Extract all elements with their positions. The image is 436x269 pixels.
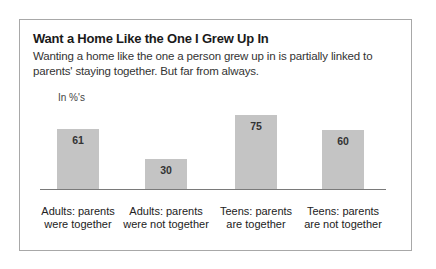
category-label-line1: Adults: parents xyxy=(33,205,123,218)
chart-title: Want a Home Like the One I Grew Up In xyxy=(33,31,269,46)
category-label-4: Teens: parentsare not together xyxy=(298,205,388,231)
x-axis-baseline xyxy=(40,189,386,190)
chart-subtitle: Wanting a home like the one a person gre… xyxy=(33,49,393,79)
category-label-line1: Adults: parents xyxy=(121,205,211,218)
unit-label: In %'s xyxy=(58,92,85,103)
bar-value-label: 75 xyxy=(235,120,277,132)
category-label-line2: are not together xyxy=(298,218,388,231)
bar-2: 30 xyxy=(145,159,187,189)
category-label-line2: were together xyxy=(33,218,123,231)
category-label-line2: were not together xyxy=(121,218,211,231)
category-label-line1: Teens: parents xyxy=(298,205,388,218)
category-label-line2: are together xyxy=(211,218,301,231)
bar-4: 60 xyxy=(322,130,364,189)
bar-value-label: 60 xyxy=(322,135,364,147)
bar-1: 61 xyxy=(57,129,99,189)
category-label-line1: Teens: parents xyxy=(211,205,301,218)
category-label-1: Adults: parentswere together xyxy=(33,205,123,231)
bar-value-label: 61 xyxy=(57,134,99,146)
category-label-3: Teens: parentsare together xyxy=(211,205,301,231)
bar-value-label: 30 xyxy=(145,164,187,176)
bar-3: 75 xyxy=(235,115,277,189)
category-label-2: Adults: parentswere not together xyxy=(121,205,211,231)
